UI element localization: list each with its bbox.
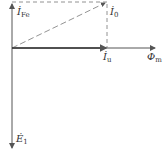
phi-m-label: Φm	[147, 51, 162, 64]
e-1-label: Ė1	[16, 133, 28, 146]
i-0-label: İ0	[110, 6, 118, 19]
i-u-label: İu	[103, 51, 111, 64]
i-fe-label: İFe	[17, 6, 30, 19]
